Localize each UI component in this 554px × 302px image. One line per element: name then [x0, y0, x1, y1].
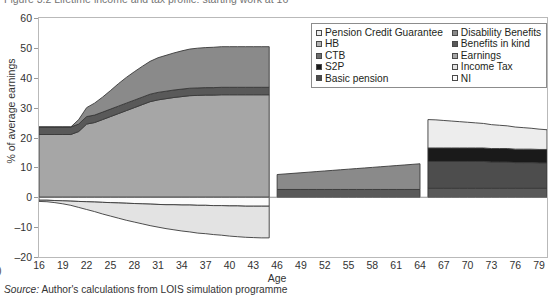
legend-swatch-icon — [316, 41, 322, 47]
legend-label: Basic pension — [325, 73, 388, 84]
figure-caption: Figure 3.2 Lifetime income and tax profi… — [4, 0, 550, 5]
legend-item[interactable]: Income Tax — [452, 61, 541, 72]
x-tick-label: 37 — [195, 260, 217, 271]
legend-item[interactable]: S2P — [316, 61, 443, 72]
x-tick-label: 64 — [409, 260, 431, 271]
legend-item[interactable]: Earnings — [452, 50, 541, 61]
y-tick-label: –10 — [0, 222, 32, 232]
y-tick-label: 60 — [0, 13, 32, 23]
x-tick-label: 79 — [528, 260, 550, 271]
legend-label: S2P — [325, 61, 344, 72]
legend-swatch-icon — [316, 64, 322, 70]
legend-label: Pension Credit Guarantee — [325, 27, 443, 38]
x-tick-label: 34 — [171, 260, 193, 271]
legend-swatch-icon — [316, 53, 322, 59]
x-tick-label: 25 — [99, 260, 121, 271]
area-series-basic_pension — [428, 161, 547, 188]
x-tick-label: 76 — [504, 260, 526, 271]
figure-root: Figure 3.2 Lifetime income and tax profi… — [0, 0, 554, 302]
area-series-earnings — [39, 95, 269, 197]
x-tick-label: 19 — [52, 260, 74, 271]
source-note: Source: Author's calculations from LOIS … — [4, 284, 287, 295]
legend-item[interactable]: Basic pension — [316, 73, 443, 84]
x-tick-label: 67 — [433, 260, 455, 271]
x-tick-label: 61 — [385, 260, 407, 271]
x-tick-label: 31 — [147, 260, 169, 271]
source-text: Author's calculations from LOIS simulati… — [39, 284, 287, 295]
legend-item[interactable]: CTB — [316, 50, 443, 61]
legend-swatch-icon — [316, 30, 322, 36]
legend-item[interactable]: HB — [316, 38, 443, 49]
legend-label: Benefits in kind — [461, 38, 530, 49]
legend-swatch-icon — [452, 64, 458, 70]
area-series-pension_credit_guarantee — [428, 120, 547, 150]
area-series-disability_benefits — [277, 164, 420, 190]
legend-label: HB — [325, 38, 339, 49]
x-tick-label: 46 — [266, 260, 288, 271]
x-tick-label: 22 — [76, 260, 98, 271]
legend-swatch-icon — [452, 75, 458, 81]
x-tick-label: 58 — [361, 260, 383, 271]
area-series-benefits_in_kind — [428, 188, 547, 197]
legend-item[interactable]: Disability Benefits — [452, 27, 541, 38]
x-tick-label: 16 — [28, 260, 50, 271]
legend-label: Earnings — [461, 50, 501, 61]
legend-swatch-icon — [316, 75, 322, 81]
legend-swatch-icon — [452, 30, 458, 36]
legend-label: Income Tax — [461, 61, 513, 72]
legend-item[interactable]: NI — [452, 73, 541, 84]
x-axis-label: Age — [0, 272, 554, 284]
x-tick-label: 52 — [314, 260, 336, 271]
x-tick-label: 43 — [242, 260, 264, 271]
x-tick-label: 73 — [480, 260, 502, 271]
y-tick-label: 0 — [0, 192, 32, 202]
y-axis-label: % of average earnings — [5, 51, 17, 171]
area-series-benefits_in_kind — [277, 189, 420, 197]
legend-item[interactable]: Pension Credit Guarantee — [316, 27, 443, 38]
x-tick-label: 70 — [457, 260, 479, 271]
chart-legend: Pension Credit GuaranteeDisability Benef… — [311, 23, 547, 88]
area-series-s2p — [428, 148, 547, 163]
legend-label: Disability Benefits — [461, 27, 541, 38]
legend-swatch-icon — [452, 41, 458, 47]
legend-label: CTB — [325, 50, 345, 61]
legend-swatch-icon — [452, 53, 458, 59]
area-series-income_tax — [39, 200, 269, 238]
x-tick-label: 40 — [219, 260, 241, 271]
source-label: Source: — [4, 284, 39, 295]
legend-label: NI — [461, 73, 471, 84]
x-tick-label: 49 — [290, 260, 312, 271]
x-tick-label: 55 — [338, 260, 360, 271]
x-tick-label: 28 — [123, 260, 145, 271]
legend-item[interactable]: Benefits in kind — [452, 38, 541, 49]
